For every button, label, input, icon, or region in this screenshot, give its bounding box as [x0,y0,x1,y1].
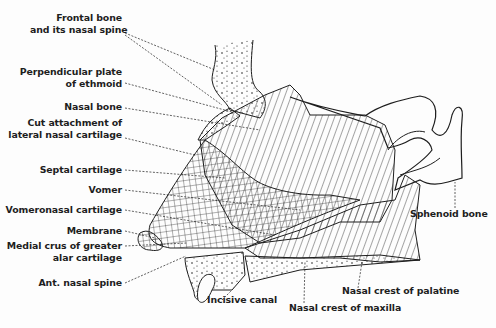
label-line: alar cartilage [0,252,122,264]
nasal-septum-diagram: Frontal bone and its nasal spine Perpend… [0,0,496,328]
label-nasal-crest-maxilla: Nasal crest of maxilla [289,302,401,314]
label-line: Medial crus of greater [0,240,122,252]
label-membrane: Membrane [10,225,122,237]
label-line: and its nasal spine [30,24,122,36]
label-line: of ethmoid [10,78,122,90]
label-frontal-bone: Frontal bone and its nasal spine [30,12,122,36]
label-medial-crus: Medial crus of greater alar cartilage [0,240,122,264]
label-line: Cut attachment of [0,117,122,129]
label-line: Frontal bone [30,12,122,24]
label-vomer: Vomer [10,184,122,196]
maxilla [185,252,245,299]
label-line: Perpendicular plate [10,66,122,78]
nasal-crest [245,255,420,282]
label-cut-attachment: Cut attachment of lateral nasal cartilag… [0,117,122,141]
label-sphenoid-bone: Sphenoid bone [410,208,488,220]
label-nasal-crest-palatine: Nasal crest of palatine [342,285,459,297]
label-incisive-canal: Incisive canal [207,294,277,306]
label-line: lateral nasal cartilage [0,129,122,141]
label-septal-cartilage: Septal cartilage [10,164,122,176]
label-vomeronasal-cartilage: Vomeronasal cartilage [0,204,122,216]
label-perpendicular-plate: Perpendicular plate of ethmoid [10,66,122,90]
label-nasal-bone: Nasal bone [20,101,122,113]
label-ant-nasal-spine: Ant. nasal spine [10,277,122,289]
